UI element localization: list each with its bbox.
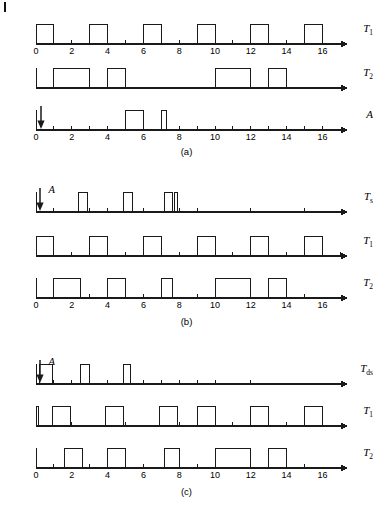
panel-a: 0246810121416T1T20246810121416A(a): [0, 0, 373, 168]
waveform-Tds: [33, 354, 369, 394]
signal-label-subscript: 1: [369, 240, 373, 249]
waveform-Ts: [33, 182, 369, 222]
waveform-T2: [33, 58, 369, 98]
figure-canvas: 0246810121416T1T20246810121416A(a)TsAT10…: [0, 0, 373, 508]
panel-c: TdsAT10246810121416T2(c): [0, 338, 373, 508]
pulse-train: [36, 406, 347, 426]
pulse-train: [36, 68, 347, 88]
pulse-train: [36, 110, 347, 130]
pulse-train: [36, 278, 347, 298]
pulse-train: [36, 448, 347, 468]
pulse-train: [36, 364, 347, 384]
signal-label-subscript: 2: [369, 452, 373, 461]
panel-caption-c: (c): [0, 486, 373, 497]
panel-b: TsAT10246810121416T2(b): [0, 168, 373, 338]
panel-caption-b: (b): [0, 316, 373, 327]
pulse-train: [36, 24, 347, 44]
event-arrow-label: A: [49, 356, 55, 367]
waveform-T1: [33, 396, 369, 436]
waveform-A: [33, 100, 369, 140]
signal-label-subscript: 2: [369, 72, 373, 81]
waveform-T2: [33, 438, 369, 478]
event-arrow-label: A: [49, 184, 55, 195]
signal-label-subscript: 2: [369, 282, 373, 291]
waveform-T2: [33, 268, 369, 308]
waveform-T1: [33, 14, 369, 54]
waveform-T1: [33, 226, 369, 266]
event-arrow-down-icon: [35, 105, 57, 131]
pulse-train: [36, 236, 347, 256]
signal-label-subscript: 1: [369, 410, 373, 419]
panel-caption-a: (a): [0, 146, 373, 157]
signal-label-subscript: 1: [369, 28, 373, 37]
pulse-train: [36, 192, 347, 212]
